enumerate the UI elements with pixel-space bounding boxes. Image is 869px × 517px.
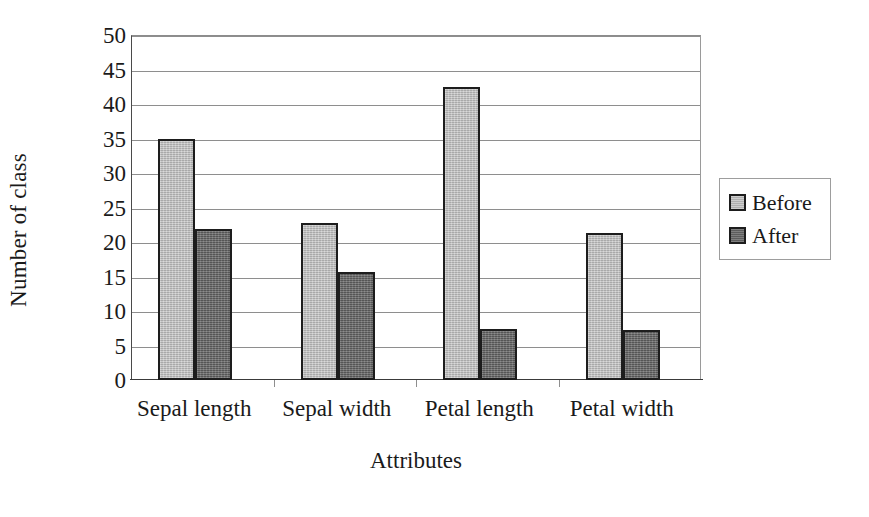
- x-axis-category-label: Sepal width: [282, 396, 391, 422]
- bar: [443, 87, 480, 380]
- y-axis-tick-label: 10: [58, 300, 126, 323]
- plot-area: [131, 35, 701, 380]
- x-axis-category-label: Petal width: [570, 396, 674, 422]
- chart-legend: BeforeAfter: [719, 178, 831, 260]
- legend-label: Before: [752, 192, 812, 214]
- bar: [158, 139, 195, 381]
- x-axis-tick: [559, 380, 560, 387]
- y-axis-tick-label: 20: [58, 231, 126, 254]
- x-axis-tick: [274, 380, 275, 387]
- bar: [480, 329, 517, 380]
- bar: [301, 223, 338, 380]
- y-axis-tick-label: 35: [58, 127, 126, 150]
- y-axis-tick-label: 40: [58, 93, 126, 116]
- y-axis-tick-label: 5: [58, 334, 126, 357]
- bar: [586, 233, 623, 380]
- legend-swatch-icon: [729, 227, 746, 244]
- x-axis-tick: [416, 380, 417, 387]
- x-axis-ticks: [131, 380, 701, 388]
- x-axis-category-labels: Sepal lengthSepal widthPetal lengthPetal…: [110, 396, 740, 430]
- y-axis-tick-label: 0: [58, 369, 126, 392]
- x-axis-title: Attributes: [271, 448, 561, 474]
- legend-label: After: [752, 225, 798, 247]
- legend-item: Before: [729, 186, 830, 219]
- bar-group-container: [132, 36, 700, 380]
- legend-item: After: [729, 219, 830, 252]
- y-axis-tick-label: 50: [58, 24, 126, 47]
- y-axis-tick-label: 45: [58, 58, 126, 81]
- y-axis-tick-label: 30: [58, 162, 126, 185]
- y-axis-title: Number of class: [6, 120, 32, 340]
- bar: [338, 272, 375, 380]
- y-axis-tick-label: 15: [58, 265, 126, 288]
- bar-chart-figure: Number of class 05101520253035404550 Sep…: [0, 0, 869, 517]
- y-axis-tick-labels: 05101520253035404550: [58, 35, 126, 380]
- bar: [623, 330, 660, 380]
- x-axis-category-label: Sepal length: [137, 396, 251, 422]
- x-axis-category-label: Petal length: [425, 396, 534, 422]
- y-axis-tick-label: 25: [58, 196, 126, 219]
- legend-swatch-icon: [729, 194, 746, 211]
- bar: [195, 229, 232, 380]
